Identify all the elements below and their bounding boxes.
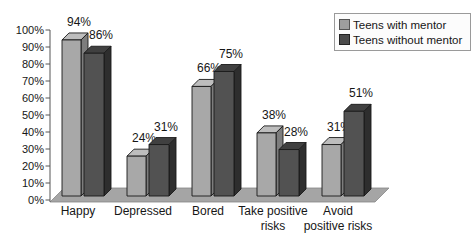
x-axis-label-cat4: Avoid positive risks [290,204,386,233]
y-tick-label: 80% [22,58,44,70]
bar-without-mentor-cat0-value-label: 86% [89,28,113,42]
bar-without-mentor-cat1-front [149,145,169,196]
bar-without-mentor-cat4-value-label: 51% [349,86,373,100]
legend-item-without-mentor: Teens without mentor [339,32,468,47]
legend-label-with-mentor: Teens with mentor [353,19,446,31]
bar-with-mentor-cat4-front [322,145,341,196]
y-tick-label: 20% [22,160,44,172]
y-tick-label: 90% [22,41,44,53]
y-tick-label: 40% [22,126,44,138]
bar-without-mentor-cat3-side [299,143,306,196]
bar-with-mentor-cat0-front [62,40,81,196]
bar-without-mentor-cat2-side [234,65,241,197]
bar-without-mentor-cat2-value-label: 75% [219,47,243,61]
bar-with-mentor-cat1-front [127,156,146,196]
y-tick-label: 60% [22,92,44,104]
bar-with-mentor-cat3-value-label: 38% [262,108,286,122]
y-tick-label: 30% [22,143,44,155]
legend-item-with-mentor: Teens with mentor [339,17,468,32]
legend: Teens with mentor Teens without mentor [334,13,471,51]
y-tick-label: 10% [22,177,44,189]
bar-without-mentor-cat0-front [84,53,104,196]
bar-without-mentor-cat0-side [104,46,111,196]
bar-without-mentor-cat2-front [214,72,234,197]
bar-with-mentor-cat0-value-label: 94% [67,15,91,29]
y-tick-label: 100% [16,24,44,36]
bar-with-mentor-cat2-front [192,86,211,196]
bar-with-mentor-cat3-front [257,133,276,196]
bar-without-mentor-cat3-front [279,150,299,196]
bar-without-mentor-cat1-side [169,138,176,196]
bar-chart-teens-mentor: 0%10%20%30%40%50%60%70%80%90%100%94%86%2… [0,0,473,242]
bar-without-mentor-cat1-value-label: 31% [154,120,178,134]
legend-label-without-mentor: Teens without mentor [353,34,462,46]
legend-swatch-with-mentor-icon [339,19,350,30]
y-tick-label: 50% [22,109,44,121]
bar-without-mentor-cat4-front [344,111,364,196]
bar-without-mentor-cat3-value-label: 28% [284,125,308,139]
bar-without-mentor-cat4-side [364,104,371,196]
legend-swatch-without-mentor-icon [339,34,350,45]
y-tick-label: 70% [22,75,44,87]
